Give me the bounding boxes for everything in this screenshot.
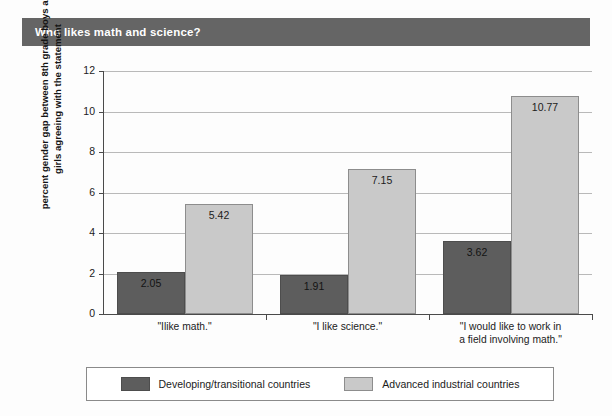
category-label-1: "I like science." [266, 320, 429, 333]
legend-label: Developing/transitional countries [159, 378, 311, 390]
chart-title-banner: Who likes math and science? [22, 18, 590, 46]
x-axis-line [103, 314, 592, 315]
bar-value-label: 7.15 [349, 174, 415, 186]
x-tick-mark [592, 314, 593, 320]
bar-value-label: 5.42 [186, 209, 252, 221]
legend-entry-1[interactable]: Advanced industrial countries [344, 377, 519, 391]
y-tick-label: 12 [69, 64, 95, 76]
bar-advanced-1: 7.15 [348, 169, 416, 314]
plot-area: 2.055.421.917.153.6210.77 [103, 71, 592, 314]
chart-legend: Developing/transitional countriesAdvance… [86, 367, 554, 401]
bar-developing-0: 2.05 [117, 272, 185, 314]
legend-swatch-icon [121, 377, 150, 391]
legend-swatch-icon [344, 377, 373, 391]
legend-label: Advanced industrial countries [382, 378, 519, 390]
legend-entry-0[interactable]: Developing/transitional countries [121, 377, 311, 391]
chart-figure: Who likes math and science? percent gend… [0, 0, 612, 416]
bar-developing-2: 3.62 [443, 241, 511, 314]
y-tick-label: 0 [69, 307, 95, 319]
y-tick-label: 6 [69, 186, 95, 198]
bar-value-label: 1.91 [281, 280, 347, 292]
bar-value-label: 10.77 [512, 101, 578, 113]
category-label-2: "I would like to work in a field involvi… [429, 320, 592, 346]
y-tick-label: 10 [69, 105, 95, 117]
y-axis-label: percent gender gap between 8th grade boy… [38, 0, 64, 224]
category-label-0: "Ilike math." [103, 320, 266, 333]
bar-advanced-0: 5.42 [185, 204, 253, 314]
bar-value-label: 3.62 [444, 246, 510, 258]
y-tick-label: 8 [69, 145, 95, 157]
y-tick-label: 4 [69, 226, 95, 238]
bar-developing-1: 1.91 [280, 275, 348, 314]
bar-advanced-2: 10.77 [511, 96, 579, 314]
y-tick-label: 2 [69, 267, 95, 279]
bar-value-label: 2.05 [118, 277, 184, 289]
